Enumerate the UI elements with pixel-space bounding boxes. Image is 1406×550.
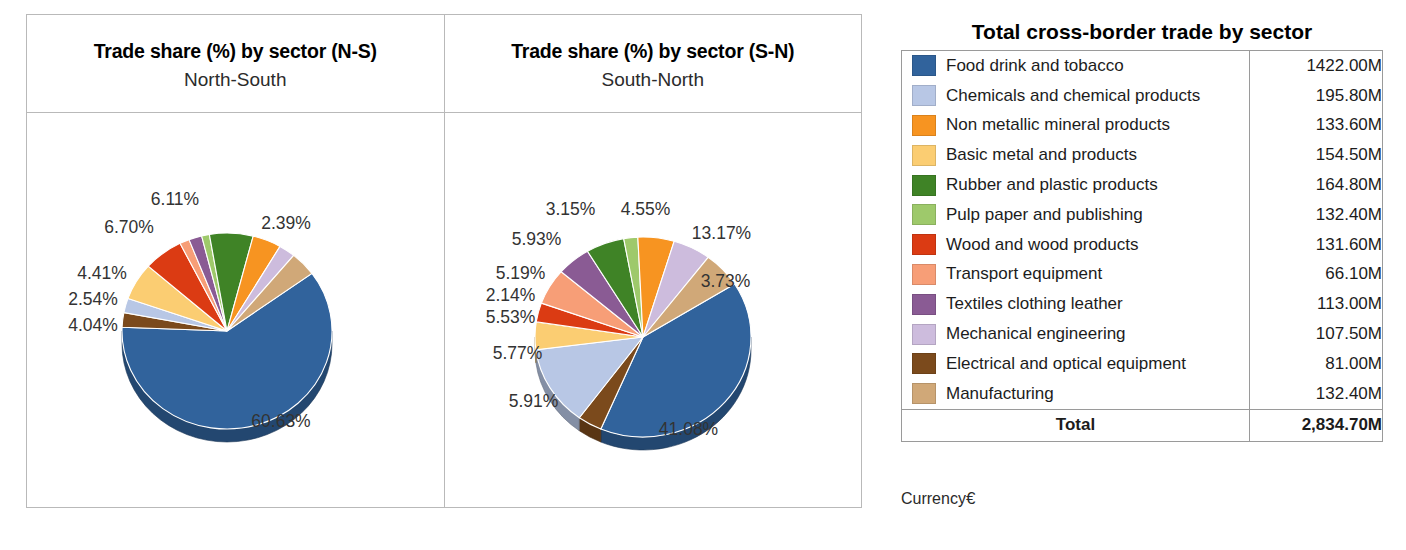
panel-header-south-north: Trade share (%) by sector (S-N) South-No… (445, 15, 862, 113)
legend-color-swatch (912, 115, 936, 136)
legend-color-swatch (912, 145, 936, 166)
sector-value-cell: 133.60M (1250, 111, 1383, 141)
panel-subtitle-south-north: South-North (602, 69, 704, 91)
sector-name-cell: Textiles clothing leather (946, 289, 1250, 319)
chart-panel-south-north: Trade share (%) by sector (S-N) South-No… (445, 15, 862, 507)
legend-color-swatch (912, 55, 936, 76)
sector-value-cell: 113.00M (1250, 289, 1383, 319)
sector-value-cell: 154.50M (1250, 140, 1383, 170)
legend-swatch-cell (902, 349, 947, 379)
pie-percentage-label: 5.93% (512, 229, 562, 250)
sector-value-cell: 1422.00M (1250, 51, 1383, 81)
table-row: Manufacturing132.40M (902, 379, 1383, 409)
legend-swatch-cell (902, 81, 947, 111)
pie-percentage-label: 41.08% (659, 419, 718, 440)
currency-note-label: Currency (901, 490, 966, 507)
sector-total-table-block: Total cross-border trade by sector Food … (901, 20, 1383, 442)
pie-percentage-label: 4.04% (68, 315, 118, 336)
sector-name-cell: Rubber and plastic products (946, 170, 1250, 200)
sector-name-cell: Chemicals and chemical products (946, 81, 1250, 111)
table-row: Basic metal and products154.50M (902, 140, 1383, 170)
sector-value-cell: 107.50M (1250, 319, 1383, 349)
total-value-cell: 2,834.70M (1250, 409, 1383, 441)
table-row: Electrical and optical equipment81.00M (902, 349, 1383, 379)
legend-swatch-cell (902, 51, 947, 81)
table-row: Rubber and plastic products164.80M (902, 170, 1383, 200)
sector-name-cell: Wood and wood products (946, 230, 1250, 260)
chart-panel-north-south: Trade share (%) by sector (N-S) North-So… (27, 15, 445, 507)
legend-swatch-cell (902, 170, 947, 200)
legend-color-swatch (912, 234, 936, 255)
sector-name-cell: Food drink and tobacco (946, 51, 1250, 81)
sector-total-table: Food drink and tobacco1422.00MChemicals … (901, 50, 1383, 442)
legend-swatch-cell (902, 319, 947, 349)
legend-color-swatch (912, 264, 936, 285)
sector-value-cell: 195.80M (1250, 81, 1383, 111)
sector-name-cell: Manufacturing (946, 379, 1250, 409)
sector-value-cell: 66.10M (1250, 260, 1383, 290)
table-row: Food drink and tobacco1422.00M (902, 51, 1383, 81)
table-total-row: Total2,834.70M (902, 409, 1383, 441)
panel-title-south-north: Trade share (%) by sector (S-N) (511, 40, 794, 63)
legend-color-swatch (912, 353, 936, 374)
panel-title-north-south: Trade share (%) by sector (N-S) (94, 40, 377, 63)
euro-symbol-icon: € (966, 489, 975, 508)
sector-value-cell: 131.60M (1250, 230, 1383, 260)
pie-svg-north-south (27, 113, 445, 507)
sector-name-cell: Mechanical engineering (946, 319, 1250, 349)
legend-color-swatch (912, 294, 936, 315)
pie-percentage-label: 3.15% (546, 199, 596, 220)
pie-percentage-label: 4.55% (621, 199, 671, 220)
pie-percentage-label: 5.77% (493, 343, 543, 364)
legend-swatch-cell (902, 200, 947, 230)
pie-slices (122, 233, 332, 429)
legend-color-swatch (912, 324, 936, 345)
table-row: Chemicals and chemical products195.80M (902, 81, 1383, 111)
table-row: Mechanical engineering107.50M (902, 319, 1383, 349)
sector-value-cell: 132.40M (1250, 200, 1383, 230)
panel-header-north-south: Trade share (%) by sector (N-S) North-So… (27, 15, 444, 113)
table-row: Wood and wood products131.60M (902, 230, 1383, 260)
screenshot-root: Trade share (%) by sector (N-S) North-So… (0, 0, 1406, 550)
sector-value-cell: 81.00M (1250, 349, 1383, 379)
legend-swatch-cell (902, 379, 947, 409)
sector-value-cell: 164.80M (1250, 170, 1383, 200)
legend-swatch-cell (902, 289, 947, 319)
pie-slices (535, 237, 751, 437)
legend-swatch-cell (902, 140, 947, 170)
legend-color-swatch (912, 383, 936, 404)
pie-percentage-label: 2.54% (68, 289, 118, 310)
table-row: Non metallic mineral products133.60M (902, 111, 1383, 141)
table-row: Transport equipment66.10M (902, 260, 1383, 290)
total-label-cell: Total (902, 409, 1250, 441)
pie-percentage-label: 5.19% (496, 263, 546, 284)
pie-chart-north-south: 2.39%6.11%6.70%4.41%2.54%4.04%60.63% (27, 113, 444, 507)
pie-percentage-label: 3.73% (701, 271, 751, 292)
pie-chart-south-north: 3.15%4.55%13.17%5.93%3.73%5.19%2.14%5.53… (445, 113, 862, 507)
legend-color-swatch (912, 85, 936, 106)
legend-color-swatch (912, 175, 936, 196)
pie-percentage-label: 5.91% (509, 391, 559, 412)
table-row: Pulp paper and publishing132.40M (902, 200, 1383, 230)
table-title: Total cross-border trade by sector (901, 20, 1383, 44)
sector-name-cell: Electrical and optical equipment (946, 349, 1250, 379)
legend-swatch-cell (902, 260, 947, 290)
pie-percentage-label: 6.70% (104, 217, 154, 238)
sector-name-cell: Basic metal and products (946, 140, 1250, 170)
pie-percentage-label: 6.11% (151, 189, 199, 210)
currency-note: Currency€ (901, 489, 975, 509)
pie-percentage-label: 2.14% (486, 285, 536, 306)
sector-name-cell: Pulp paper and publishing (946, 200, 1250, 230)
sector-name-cell: Non metallic mineral products (946, 111, 1250, 141)
legend-color-swatch (912, 204, 936, 225)
pie-percentage-label: 5.53% (486, 307, 536, 328)
table-row: Textiles clothing leather113.00M (902, 289, 1383, 319)
pie-percentage-label: 2.39% (261, 213, 311, 234)
pie-percentage-label: 4.41% (77, 263, 127, 284)
legend-swatch-cell (902, 230, 947, 260)
panel-subtitle-north-south: North-South (184, 69, 286, 91)
charts-container: Trade share (%) by sector (N-S) North-So… (26, 14, 862, 508)
pie-percentage-label: 60.63% (251, 411, 310, 432)
pie-percentage-label: 13.17% (692, 223, 751, 244)
sector-name-cell: Transport equipment (946, 260, 1250, 290)
